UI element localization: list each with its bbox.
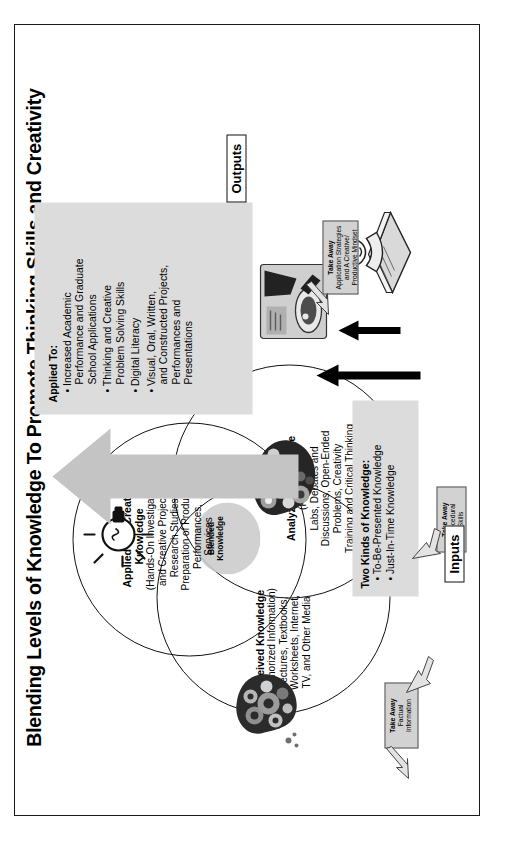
outputs-label: Outputs xyxy=(227,135,247,203)
outline-arrow-left-factual-icon xyxy=(383,747,417,781)
figure-frame: Blending Levels of Knowledge To Promote … xyxy=(14,24,480,816)
diagram-canvas: Blending Levels of Knowledge To Promote … xyxy=(17,25,478,811)
list-item: Just-In-Time Knowledge xyxy=(384,409,397,581)
big-up-arrow-icon xyxy=(53,429,299,525)
gear-head-icon xyxy=(231,665,307,749)
page-title: Blending Levels of Knowledge To Promote … xyxy=(23,25,46,811)
list-item: Thinking and Creative Problem Solving Sk… xyxy=(102,215,127,393)
applied-to-list: Increased Academic Performance and Gradu… xyxy=(62,215,196,403)
two-kinds-of-knowledge-box: Two Kinds of Knowledge: To-Be-Presented … xyxy=(353,401,419,597)
outline-arrow-application-icon xyxy=(305,281,335,317)
black-arrow-up-long-icon xyxy=(317,365,421,387)
two-kinds-title: Two Kinds of Knowledge: xyxy=(359,409,371,589)
applied-to-title: Applied To: xyxy=(47,215,59,403)
outline-arrow-right-factual-icon xyxy=(401,653,435,693)
black-arrow-up-short-icon xyxy=(339,321,401,341)
applied-to-box: Applied To: Increased Academic Performan… xyxy=(35,203,253,415)
two-kinds-list: To-Be-Presented Knowledge Just-In-Time K… xyxy=(372,409,397,589)
list-item: Increased Academic Performance and Gradu… xyxy=(62,215,99,393)
inputs-label: Inputs xyxy=(445,526,465,583)
list-item: Visual, Oral, Written, and Constructed P… xyxy=(145,215,195,393)
list-item: Digital Literacy xyxy=(130,215,142,393)
figure-page: Blending Levels of Knowledge To Promote … xyxy=(0,0,521,848)
list-item: To-Be-Presented Knowledge xyxy=(372,409,385,581)
outline-arrow-procedural-icon xyxy=(409,527,443,563)
